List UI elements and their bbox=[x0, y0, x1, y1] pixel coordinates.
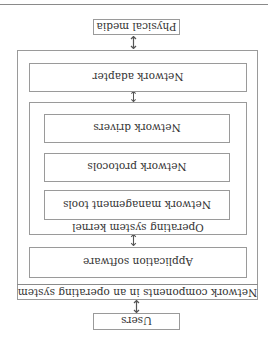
frame-divider bbox=[17, 284, 258, 285]
network-drivers-label: Network drivers bbox=[93, 123, 180, 135]
physical-media-label: Physical media bbox=[97, 21, 177, 33]
network-management-tools-box: Network management tools bbox=[44, 190, 230, 220]
network-drivers-box: Network drivers bbox=[44, 114, 230, 143]
network-adapter-box: Network adapter bbox=[29, 63, 247, 92]
double-arrow-icon bbox=[133, 300, 140, 313]
application-software-label: Application software bbox=[83, 257, 193, 269]
network-protocols-label: Network protocols bbox=[87, 162, 186, 174]
network-adapter-label: Network adapter bbox=[92, 72, 183, 84]
network-management-tools-label: Network management tools bbox=[63, 199, 211, 211]
double-arrow-icon bbox=[130, 234, 137, 246]
users-box: Users bbox=[93, 313, 180, 330]
kernel-label: Operating system kernel bbox=[29, 222, 247, 234]
users-label: Users bbox=[121, 316, 152, 328]
network-components-label: Network components in an operating syste… bbox=[17, 287, 258, 299]
diagram-rotated: Users Network components in an operating… bbox=[0, 0, 268, 345]
bottom-rule bbox=[0, 4, 268, 5]
double-arrow-icon bbox=[130, 36, 137, 49]
double-arrow-icon bbox=[130, 91, 137, 102]
application-software-box: Application software bbox=[29, 247, 247, 278]
physical-media-box: Physical media bbox=[93, 19, 180, 35]
network-protocols-box: Network protocols bbox=[44, 153, 230, 182]
